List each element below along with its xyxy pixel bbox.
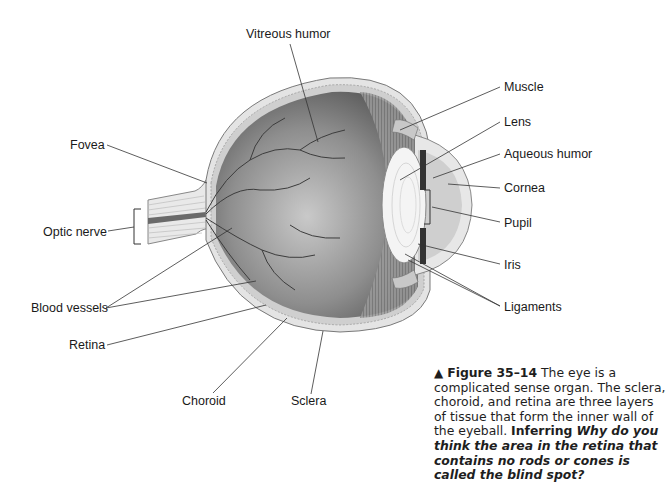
caption-skill: Inferring [511, 423, 572, 438]
optic-nerve-drawing [148, 180, 214, 244]
label-lens: Lens [504, 115, 531, 129]
label-fovea: Fovea [70, 138, 105, 152]
label-vitreous-humor: Vitreous humor [246, 27, 331, 41]
figure-number: Figure 35–14 [447, 365, 537, 380]
label-sclera: Sclera [291, 394, 326, 408]
label-ligaments: Ligaments [504, 300, 562, 314]
figure-caption: ▲ Figure 35–14 The eye is a complicated … [434, 366, 666, 483]
triangle-marker-icon: ▲ [434, 366, 443, 380]
label-muscle: Muscle [504, 80, 544, 94]
label-pupil: Pupil [504, 216, 532, 230]
label-cornea: Cornea [504, 181, 545, 195]
label-optic-nerve: Optic nerve [43, 225, 107, 239]
label-retina: Retina [69, 338, 105, 352]
label-choroid: Choroid [182, 394, 226, 408]
label-blood-vessels: Blood vessels [31, 301, 108, 315]
label-aqueous-humor: Aqueous humor [504, 147, 592, 161]
optic-nerve-bracket [134, 209, 141, 244]
label-iris: Iris [504, 258, 521, 272]
